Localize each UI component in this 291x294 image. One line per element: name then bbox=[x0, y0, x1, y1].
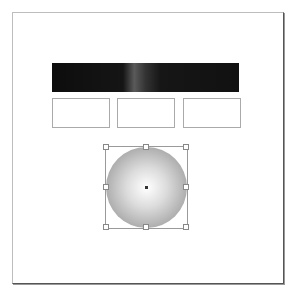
handle-left[interactable] bbox=[103, 184, 109, 190]
center-point-icon bbox=[145, 186, 148, 189]
handle-bottom-left[interactable] bbox=[103, 224, 109, 230]
handle-bottom-right[interactable] bbox=[183, 224, 189, 230]
empty-box-2[interactable] bbox=[117, 98, 175, 128]
empty-box-1[interactable] bbox=[52, 98, 110, 128]
handle-top[interactable] bbox=[143, 144, 149, 150]
handle-top-right[interactable] bbox=[183, 144, 189, 150]
handle-top-left[interactable] bbox=[103, 144, 109, 150]
handle-bottom[interactable] bbox=[143, 224, 149, 230]
empty-box-3[interactable] bbox=[183, 98, 241, 128]
gradient-bar[interactable] bbox=[52, 63, 239, 92]
handle-right[interactable] bbox=[183, 184, 189, 190]
selected-circle-bounding-box[interactable] bbox=[105, 146, 188, 229]
